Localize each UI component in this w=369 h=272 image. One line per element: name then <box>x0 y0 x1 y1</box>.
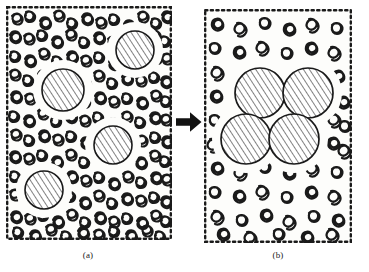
filler-particle <box>42 69 84 111</box>
arrow-right-icon <box>176 112 202 132</box>
transition-arrow <box>176 111 202 133</box>
filler-particle <box>221 114 271 164</box>
filler-particle <box>94 126 132 164</box>
panel-a-caption: (a) <box>58 250 118 260</box>
filler-particle <box>116 31 154 69</box>
figure-container: (a) (b) <box>0 0 369 272</box>
panel-b-caption: (b) <box>248 250 308 260</box>
filler-particle <box>235 68 285 118</box>
filler-particle <box>269 114 319 164</box>
panel-b <box>204 9 352 243</box>
filler-particle <box>25 171 63 209</box>
panel-a <box>6 6 172 240</box>
filler-particle <box>283 68 333 118</box>
